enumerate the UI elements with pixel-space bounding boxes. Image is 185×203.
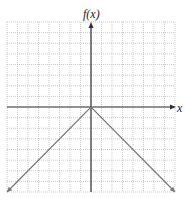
x-axis-label: x bbox=[177, 102, 182, 114]
graph-plot bbox=[0, 0, 185, 203]
y-axis-label: f(x) bbox=[83, 8, 100, 20]
